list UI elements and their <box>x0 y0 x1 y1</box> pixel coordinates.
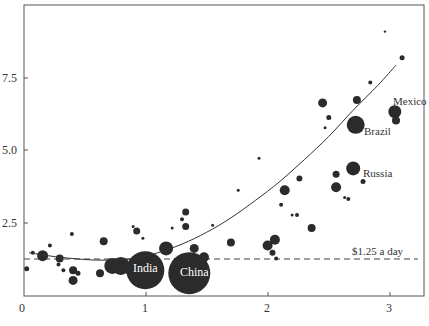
data-point <box>296 176 302 182</box>
data-point <box>133 228 140 235</box>
data-point <box>182 223 189 230</box>
data-point <box>24 266 29 271</box>
y-tick-label-2-5: 2.5 <box>2 216 17 230</box>
data-point <box>180 217 184 221</box>
data-point <box>100 237 108 245</box>
data-point <box>280 185 290 195</box>
data-point <box>384 30 386 32</box>
data-point <box>331 182 341 192</box>
data-point <box>76 271 81 276</box>
point-mexico <box>388 105 401 118</box>
data-point <box>346 197 350 201</box>
scatter-chart: 7.5 5.0 2.5 0 1 2 3 $1.25 a day India Ch… <box>0 0 429 326</box>
data-point <box>190 244 199 253</box>
data-point <box>96 269 104 277</box>
data-point <box>368 81 372 85</box>
data-point <box>291 214 294 217</box>
data-points <box>24 30 404 294</box>
label-russia: Russia <box>363 167 392 179</box>
data-point <box>392 116 400 124</box>
data-point <box>258 157 261 160</box>
data-point <box>211 224 214 227</box>
data-point <box>227 239 235 247</box>
x-tick-label-2: 2 <box>264 301 270 315</box>
label-india: India <box>133 261 158 275</box>
data-point <box>279 203 283 207</box>
label-china: China <box>180 265 209 279</box>
data-point <box>361 179 366 184</box>
data-point <box>324 126 327 129</box>
data-point <box>69 276 78 285</box>
data-point <box>274 257 278 261</box>
data-point <box>318 98 327 107</box>
data-point <box>308 224 316 232</box>
data-point <box>237 189 240 192</box>
data-point <box>141 237 144 240</box>
x-axis: 0 1 2 3 <box>19 292 392 315</box>
data-point <box>199 252 209 262</box>
data-point <box>270 250 276 256</box>
label-mexico: Mexico <box>393 95 427 107</box>
data-point <box>171 227 174 230</box>
data-point <box>270 235 280 245</box>
data-point <box>295 213 299 217</box>
data-point <box>70 232 74 236</box>
poverty-line-label: $1.25 a day <box>352 245 404 257</box>
data-point <box>353 96 361 104</box>
x-tick-label-3: 3 <box>386 301 392 315</box>
x-tick-label-1: 1 <box>142 301 148 315</box>
y-tick-label-7-5: 7.5 <box>2 71 17 85</box>
data-point <box>182 209 189 216</box>
point-russia <box>346 161 360 175</box>
point-brazil <box>347 116 365 134</box>
data-point <box>333 171 340 178</box>
data-point <box>400 55 405 60</box>
data-point <box>48 244 52 248</box>
data-point <box>326 115 331 120</box>
data-point <box>132 225 135 228</box>
data-point <box>56 255 64 263</box>
y-tick-label-5-0: 5.0 <box>2 143 17 157</box>
data-point <box>57 262 61 266</box>
trend-curve <box>29 65 396 260</box>
data-point <box>61 268 65 272</box>
data-point <box>343 196 346 199</box>
label-brazil: Brazil <box>364 125 391 137</box>
x-tick-label-0: 0 <box>19 301 25 315</box>
chart-canvas: 7.5 5.0 2.5 0 1 2 3 $1.25 a day India Ch… <box>0 0 429 326</box>
